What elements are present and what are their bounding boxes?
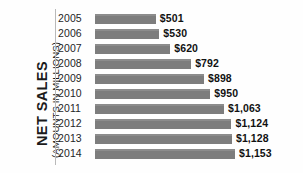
bar-row: 2010$950: [0, 86, 303, 101]
bar-wrapper: [95, 134, 232, 144]
bar-rows-container: 2005$5012006$5302007$6202008$7922009$898…: [0, 11, 303, 161]
bar-wrapper: [95, 44, 170, 54]
bar-wrapper: [95, 89, 210, 99]
category-label: 2011: [58, 102, 92, 114]
bar-wrapper: [95, 14, 156, 24]
value-label: $1,153: [239, 147, 272, 159]
category-label: 2010: [58, 87, 92, 99]
value-label: $950: [214, 87, 238, 99]
bar: [95, 59, 191, 69]
bar: [95, 104, 224, 114]
bar-wrapper: [95, 119, 231, 129]
value-label: $501: [160, 12, 184, 24]
bar: [95, 149, 235, 159]
value-label: $898: [208, 72, 232, 84]
category-label: 2006: [58, 27, 92, 39]
bar-wrapper: [95, 104, 224, 114]
value-label: $1,128: [236, 132, 269, 144]
bar-wrapper: [95, 149, 235, 159]
bar: [95, 74, 204, 84]
bar: [95, 44, 170, 54]
bar: [95, 134, 232, 144]
category-label: 2005: [58, 12, 92, 24]
bar-row: 2006$530: [0, 26, 303, 41]
bar-row: 2014$1,153: [0, 146, 303, 161]
category-label: 2014: [58, 147, 92, 159]
bar: [95, 14, 156, 24]
bar-wrapper: [95, 74, 204, 84]
bar: [95, 89, 210, 99]
net-sales-bar-chart: NET SALES (AMOUNTS IN MILLIONS) 2005$501…: [0, 0, 303, 173]
bar-row: 2005$501: [0, 11, 303, 26]
bar-row: 2013$1,128: [0, 131, 303, 146]
bar-wrapper: [95, 59, 191, 69]
bar-row: 2007$620: [0, 41, 303, 56]
value-label: $1,124: [235, 117, 268, 129]
value-label: $620: [174, 42, 198, 54]
bar-row: 2009$898: [0, 71, 303, 86]
category-label: 2008: [58, 57, 92, 69]
bar-row: 2011$1,063: [0, 101, 303, 116]
value-label: $1,063: [228, 102, 261, 114]
category-label: 2012: [58, 117, 92, 129]
category-label: 2009: [58, 72, 92, 84]
bar: [95, 119, 231, 129]
bar: [95, 29, 159, 39]
category-label: 2013: [58, 132, 92, 144]
value-label: $792: [195, 57, 219, 69]
bar-row: 2012$1,124: [0, 116, 303, 131]
bar-wrapper: [95, 29, 159, 39]
bar-row: 2008$792: [0, 56, 303, 71]
value-label: $530: [163, 27, 187, 39]
category-label: 2007: [58, 42, 92, 54]
